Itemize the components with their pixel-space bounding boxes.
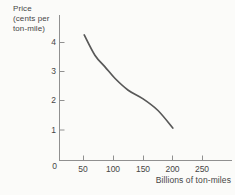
demand-curve: [84, 35, 173, 128]
origin-label: 0: [44, 161, 57, 171]
y-tick-label-2: 2: [40, 95, 56, 106]
x-tick-label-50: 50: [68, 164, 98, 174]
x-axis-title: Billions of ton-miles: [156, 175, 231, 185]
x-tick-label-200: 200: [158, 164, 188, 174]
x-axis-ticks: [84, 156, 203, 161]
x-tick-label-250: 250: [187, 164, 217, 174]
y-tick-label-4: 4: [40, 37, 56, 48]
y-axis-ticks: [60, 43, 65, 131]
demand-curve-figure: Price (cents per ton-mile) 4 3 2 1 0 50 …: [0, 0, 235, 195]
y-tick-label-1: 1: [40, 125, 56, 136]
y-tick-label-3: 3: [40, 66, 56, 77]
x-tick-label-100: 100: [98, 164, 128, 174]
x-tick-label-150: 150: [128, 164, 158, 174]
